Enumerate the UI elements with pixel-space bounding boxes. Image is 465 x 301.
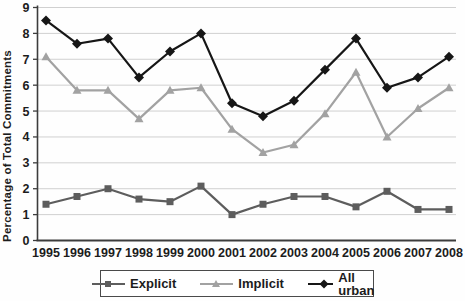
- data-point-marker: [196, 28, 206, 38]
- y-tick-label: 0: [23, 234, 30, 248]
- explicit-line-marker-icon: [92, 278, 125, 290]
- x-tick-label: 1996: [63, 246, 91, 260]
- x-tick-label: 2006: [373, 246, 401, 260]
- data-point-marker: [258, 111, 268, 121]
- data-point-marker: [105, 185, 112, 192]
- data-point-marker: [167, 198, 174, 205]
- y-axis-title: Percentage of Total Commitments: [1, 50, 13, 242]
- y-tick-labels: 0123456789: [23, 1, 30, 248]
- data-point-marker: [322, 193, 329, 200]
- data-point-marker: [229, 211, 236, 218]
- y-tick-label: 5: [23, 105, 30, 119]
- plot-area: Percentage of Total Commitments 01234567…: [0, 0, 465, 265]
- line-chart-figure: Percentage of Total Commitments 01234567…: [0, 0, 465, 301]
- gridlines-group: [38, 8, 457, 215]
- x-tick-label: 1998: [125, 246, 153, 260]
- data-point-marker: [446, 206, 453, 213]
- x-tick-label: 2004: [311, 246, 339, 260]
- all-urban-line-marker-icon: [308, 278, 334, 290]
- series-line-all-urban: [46, 20, 449, 116]
- y-tick-label: 8: [23, 27, 30, 41]
- y-tick-label: 9: [23, 1, 30, 15]
- x-tick-label: 1995: [32, 246, 60, 260]
- data-point-marker: [353, 203, 360, 210]
- series-group: [41, 15, 454, 218]
- y-tick-label: 1: [23, 208, 30, 222]
- data-point-marker: [260, 201, 267, 208]
- legend-item-explicit: Explicit: [92, 277, 176, 290]
- x-tick-label: 2001: [218, 246, 246, 260]
- data-point-marker: [352, 68, 361, 76]
- data-point-marker: [415, 206, 422, 213]
- y-tick-label: 6: [23, 79, 30, 93]
- data-point-marker: [198, 183, 205, 190]
- legend-label: Explicit: [130, 277, 176, 290]
- y-tick-label: 7: [23, 53, 30, 67]
- x-tick-label: 2000: [187, 246, 215, 260]
- data-point-marker: [42, 52, 51, 60]
- legend-marker: [105, 281, 111, 287]
- data-point-marker: [384, 188, 391, 195]
- data-point-marker: [291, 193, 298, 200]
- data-point-marker: [227, 98, 237, 108]
- legend-item-all-urban: All urban: [308, 271, 382, 297]
- x-tick-label: 2005: [342, 246, 370, 260]
- data-point-marker: [445, 83, 454, 91]
- data-point-marker: [43, 201, 50, 208]
- x-tick-label: 2008: [435, 246, 463, 260]
- y-tick-label: 3: [23, 156, 30, 170]
- x-tick-label: 2002: [249, 246, 277, 260]
- chart-legend: Explicit Implicit All urban: [100, 270, 374, 297]
- x-tick-labels: 1995199619971998199920002001200220032004…: [32, 246, 463, 260]
- legend-label: Implicit: [238, 277, 284, 290]
- implicit-line-marker-icon: [200, 278, 233, 290]
- legend-label: All urban: [338, 271, 382, 297]
- data-point-marker: [136, 196, 143, 203]
- legend-marker: [319, 279, 328, 288]
- y-tick-label: 2: [23, 182, 30, 196]
- x-tick-label: 2007: [404, 246, 432, 260]
- x-tick-label: 1997: [94, 246, 122, 260]
- legend-item-implicit: Implicit: [200, 277, 284, 290]
- y-tick-label: 4: [23, 130, 30, 144]
- x-tick-label: 1999: [156, 246, 184, 260]
- data-point-marker: [74, 193, 81, 200]
- x-tick-label: 2003: [280, 246, 308, 260]
